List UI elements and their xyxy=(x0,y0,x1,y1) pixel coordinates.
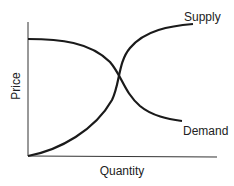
supply-demand-diagram: Supply Demand Quantity Price xyxy=(0,0,234,186)
supply-label: Supply xyxy=(184,10,221,24)
x-axis-label: Quantity xyxy=(100,164,145,178)
y-axis-label: Price xyxy=(9,72,23,100)
demand-label: Demand xyxy=(183,124,228,138)
x-axis xyxy=(28,156,217,157)
supply-curve xyxy=(28,24,193,156)
demand-curve xyxy=(28,39,182,121)
